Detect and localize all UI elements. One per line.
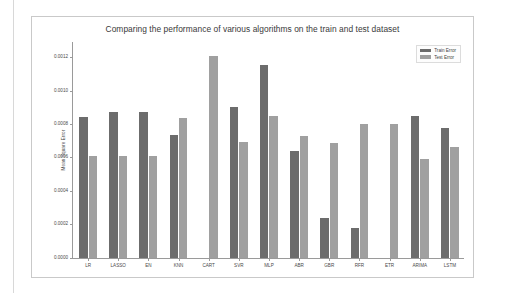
chart-legend: Train Error Test Error: [416, 45, 461, 63]
x-tick-mark: [420, 258, 421, 261]
y-tick-label: 0.0004: [54, 188, 68, 193]
legend-item-train: Train Error: [420, 48, 456, 53]
y-tick-label: 0.0006: [54, 154, 68, 159]
page-canvas: Comparing the performance of various alg…: [0, 0, 508, 293]
bar-group: MLP: [254, 42, 284, 258]
bar-group: LASSO: [103, 42, 133, 258]
x-tick-label: GBR: [324, 263, 334, 268]
bar-group: SVR: [224, 42, 254, 258]
y-tick-label: 0.0010: [54, 88, 68, 93]
x-tick-mark: [299, 258, 300, 261]
bar-test: [300, 136, 308, 258]
bar-group: ETR: [375, 42, 405, 258]
bar-group: ARIMA: [405, 42, 435, 258]
bar-test: [209, 56, 217, 258]
bar-test: [149, 156, 157, 258]
legend-label-test: Test Error: [434, 55, 454, 60]
bar-train: [230, 107, 238, 258]
x-tick-label: LSTM: [444, 263, 456, 268]
x-tick-label: KNN: [174, 263, 184, 268]
bar-train: [79, 117, 87, 258]
bar-group: RFR: [344, 42, 374, 258]
bar-test: [360, 124, 368, 258]
x-tick-mark: [450, 258, 451, 261]
chart-title: Comparing the performance of various alg…: [32, 24, 473, 34]
y-tick-label: 0.0000: [54, 255, 68, 260]
x-tick-label: EN: [145, 263, 151, 268]
bar-test: [269, 116, 277, 258]
legend-label-train: Train Error: [434, 48, 456, 53]
x-tick-mark: [179, 258, 180, 261]
bar-test: [239, 142, 247, 259]
x-tick-mark: [329, 258, 330, 261]
bar-test: [119, 156, 127, 258]
bar-group: KNN: [163, 42, 193, 258]
x-tick-mark: [88, 258, 89, 261]
bar-train: [411, 116, 419, 258]
bar-train: [290, 151, 298, 258]
bar-train: [139, 112, 147, 258]
bar-test: [89, 156, 97, 258]
x-tick-label: ARIMA: [412, 263, 427, 268]
x-tick-label: CART: [202, 263, 214, 268]
bar-group: LSTM: [435, 42, 465, 258]
x-tick-mark: [239, 258, 240, 261]
bar-train: [170, 135, 178, 258]
x-tick-mark: [359, 258, 360, 261]
legend-swatch-train-icon: [420, 49, 431, 53]
bar-test: [390, 124, 398, 258]
y-axis-label: Mean Square Error: [61, 130, 66, 171]
y-tick-label: 0.0008: [54, 121, 68, 126]
bar-group: EN: [133, 42, 163, 258]
bar-test: [179, 118, 187, 258]
x-tick-label: ETR: [385, 263, 394, 268]
bar-group: LR: [73, 42, 103, 258]
x-tick-label: LR: [85, 263, 91, 268]
x-tick-label: RFR: [355, 263, 364, 268]
legend-swatch-test-icon: [420, 55, 431, 59]
bar-group: CART: [194, 42, 224, 258]
x-tick-mark: [209, 258, 210, 261]
bar-test: [450, 147, 458, 258]
bar-test: [420, 159, 428, 258]
bar-group: ABR: [284, 42, 314, 258]
chart-figure: Comparing the performance of various alg…: [31, 16, 474, 278]
bar-train: [351, 228, 359, 258]
y-tick-label: 0.0002: [54, 221, 68, 226]
bar-test: [330, 143, 338, 258]
x-tick-mark: [148, 258, 149, 261]
legend-item-test: Test Error: [420, 55, 456, 60]
x-tick-label: ABR: [294, 263, 303, 268]
x-tick-mark: [269, 258, 270, 261]
x-tick-mark: [118, 258, 119, 261]
bar-group: GBR: [314, 42, 344, 258]
x-tick-label: LASSO: [111, 263, 126, 268]
bar-train: [441, 128, 449, 258]
x-tick-label: MLP: [264, 263, 273, 268]
plot-area: Mean Square Error 0.00000.00020.00040.00…: [72, 42, 464, 259]
bar-series-layer: LRLASSOENKNNCARTSVRMLPABRGBRRFRETRARIMAL…: [73, 42, 464, 258]
page-margin-rule: [13, 0, 14, 293]
bar-train: [260, 65, 268, 258]
x-tick-label: SVR: [234, 263, 243, 268]
x-tick-mark: [390, 258, 391, 261]
y-tick-label: 0.0012: [54, 54, 68, 59]
bar-train: [109, 112, 117, 258]
bar-train: [320, 218, 328, 258]
